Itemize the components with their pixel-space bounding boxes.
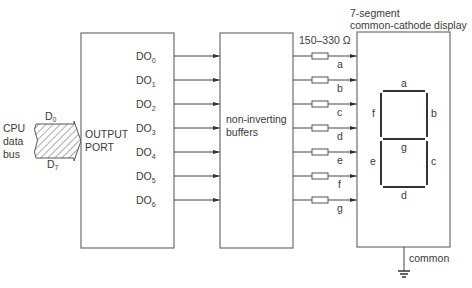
ground-icon	[398, 271, 410, 277]
line-e: e	[293, 149, 357, 166]
common-ground: common	[398, 247, 449, 277]
output-port-label-1: OUTPUT	[85, 128, 129, 140]
buffer-label-1: non-inverting	[226, 113, 287, 125]
cpu-label: CPU	[3, 122, 25, 134]
line-b: b	[293, 77, 357, 94]
resistor-icon	[312, 149, 328, 155]
arrow-right-icon	[213, 174, 220, 178]
line-g: g	[293, 197, 357, 214]
arrow-right-icon	[213, 78, 220, 82]
arrow-right-icon	[213, 150, 220, 154]
output-port-label-2: PORT	[85, 141, 115, 153]
buffer-block: non-inverting buffers	[220, 33, 293, 248]
resistor-icon	[312, 53, 328, 59]
arrow-right-icon	[350, 102, 357, 106]
line-label-f: f	[338, 178, 341, 190]
resistor-value-label: 150–330 Ω	[299, 34, 351, 46]
resistor-icon	[312, 125, 328, 131]
buffer-box	[220, 33, 293, 248]
bus-bottom-bit-label: D7	[47, 158, 59, 171]
segment-label-d: d	[401, 189, 407, 201]
seven-segment-interface-diagram: CPU data bus D0 D7 OUTPUT PORT DO0 DO1 D…	[0, 0, 472, 288]
arrow-right-icon	[350, 150, 357, 154]
line-label-g: g	[337, 202, 343, 214]
resistor-icon	[312, 197, 328, 203]
wire-do2	[174, 102, 220, 106]
arrow-right-icon	[213, 198, 220, 202]
wire-do1	[174, 78, 220, 82]
segment-label-g: g	[401, 141, 407, 153]
line-a: a	[293, 53, 357, 70]
wire-do6	[174, 198, 220, 202]
arrow-right-icon	[350, 126, 357, 130]
bus-arrow-icon	[35, 121, 82, 161]
wire-do4	[174, 150, 220, 154]
wire-do3	[174, 126, 220, 130]
resistor-icon	[312, 77, 328, 83]
arrow-right-icon	[350, 54, 357, 58]
wire-do0	[174, 54, 220, 58]
arrow-right-icon	[350, 78, 357, 82]
data-label: data	[3, 135, 24, 147]
cpu-data-bus: CPU data bus D0 D7	[3, 110, 81, 171]
arrow-right-icon	[350, 174, 357, 178]
line-label-a: a	[337, 58, 343, 70]
bus-label: bus	[3, 148, 20, 160]
wire-do5	[174, 174, 220, 178]
line-label-e: e	[337, 154, 343, 166]
display-title-2: common-cathode display	[350, 19, 467, 31]
segment-label-a: a	[401, 77, 407, 89]
resistor-icon	[312, 173, 328, 179]
bus-top-bit-label: D0	[45, 110, 57, 123]
segment-label-b: b	[431, 107, 437, 119]
output-port-block: OUTPUT PORT	[81, 33, 174, 248]
line-f: f	[293, 173, 357, 190]
segment-label-c: c	[431, 155, 436, 167]
segment-label-e: e	[370, 155, 376, 167]
arrow-right-icon	[213, 102, 220, 106]
arrow-right-icon	[213, 126, 220, 130]
arrow-right-icon	[350, 198, 357, 202]
resistor-lines: a b c d e f	[293, 53, 357, 214]
line-label-c: c	[337, 106, 342, 118]
buffer-label-2: buffers	[226, 126, 258, 138]
resistor-icon	[312, 101, 328, 107]
line-c: c	[293, 101, 357, 118]
port-to-buffer-wires	[174, 54, 220, 202]
arrow-right-icon	[213, 54, 220, 58]
line-label-b: b	[337, 82, 343, 94]
line-label-d: d	[337, 130, 343, 142]
seven-segment-display: 7-segment common-cathode display a b c d…	[350, 7, 467, 247]
segment-label-f: f	[372, 107, 375, 119]
display-title-1: 7-segment	[350, 7, 400, 19]
common-label: common	[409, 252, 449, 264]
line-d: d	[293, 125, 357, 142]
